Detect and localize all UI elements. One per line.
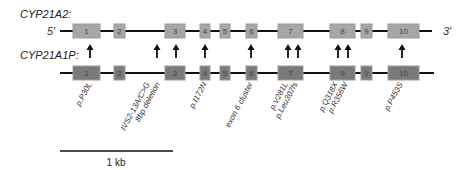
exon-number: 5 (223, 27, 228, 36)
arrow-up-icon (345, 44, 352, 58)
exon-number: 6 (249, 27, 254, 36)
arrow-up-icon (248, 44, 255, 58)
mutation-labels: p.P30LIVS2-13A/C>G8bp deletionp.I172Nexo… (73, 79, 405, 131)
scale-bar-label: 1 kb (107, 157, 126, 168)
arrow-up-icon (399, 44, 406, 58)
exon-number: 3 (173, 69, 178, 78)
cyp21a2-exon-1: 1 (73, 24, 100, 38)
exon-number: 9 (364, 69, 369, 78)
mutation-arrows (87, 44, 406, 58)
exon-number: 9 (340, 69, 345, 78)
arrow-up-icon (154, 44, 161, 58)
cyp21a1p-exon-6: 6 (246, 66, 257, 80)
arrow-up-icon (295, 44, 302, 58)
cyp21a1p-exon-3: 3 (165, 66, 185, 80)
cyp21a1p-exon-7: 7 (278, 66, 303, 80)
mutation-label: p.I172N (187, 81, 209, 111)
three-prime-label: 3' (443, 25, 452, 37)
exon-number: 2 (117, 27, 122, 36)
cyp21a1p-exon-4: 4 (200, 66, 210, 80)
cyp21a2-exons: 12345678910 (73, 24, 419, 38)
cyp21a2-exon-4: 4 (200, 24, 210, 38)
cyp21a2-exon-3: 3 (165, 24, 185, 38)
exon-number: 4 (203, 69, 208, 78)
mutation-label: p.P30L (73, 81, 93, 108)
exon-number: 1 (84, 69, 89, 78)
exon-number: 7 (288, 27, 293, 36)
exon-number: 6 (249, 69, 254, 78)
cyp21a1p-exon-8: 9 (330, 66, 355, 80)
exon-number: 3 (173, 27, 178, 36)
cyp21a2-exon-5: 5 (220, 24, 230, 38)
gene-label-cyp21a1p: CYP21A1P: (20, 49, 79, 61)
mutation-label: p.P453S (382, 80, 405, 113)
exon-number: 8 (340, 27, 345, 36)
cyp21a2-exon-8: 8 (330, 24, 355, 38)
exon-number: 1 (84, 27, 89, 36)
exon-number: 7 (288, 69, 293, 78)
arrow-up-icon (173, 44, 180, 58)
gene-label-cyp21a2: CYP21A2: (20, 8, 71, 20)
exon-number: 5 (223, 69, 228, 78)
exon-number: 9 (364, 27, 369, 36)
exon-number: 10 (399, 69, 408, 78)
cyp21a1p-exon-10: 10 (388, 66, 419, 80)
cyp21a2-exon-9: 9 (361, 24, 372, 38)
arrow-up-icon (87, 44, 94, 58)
exon-number: 10 (399, 27, 408, 36)
arrow-up-icon (285, 44, 292, 58)
gene-diagram: CYP21A2: 5' 3' CYP21A1P: 12345678910 123… (0, 0, 470, 170)
cyp21a1p-exon-2: 2 (114, 66, 125, 80)
cyp21a2-exon-6: 6 (246, 24, 257, 38)
arrow-up-icon (335, 44, 342, 58)
five-prime-label: 5' (47, 25, 56, 37)
cyp21a2-exon-7: 7 (278, 24, 303, 38)
exon-number: 2 (117, 69, 122, 78)
arrow-up-icon (202, 44, 209, 58)
cyp21a1p-exon-1: 1 (73, 66, 100, 80)
cyp21a2-exon-10: 10 (388, 24, 419, 38)
exon-number: 4 (203, 27, 208, 36)
cyp21a1p-exon-9: 9 (361, 66, 372, 80)
mutation-label: exon 6 cluster (223, 80, 254, 128)
cyp21a2-exon-2: 2 (114, 24, 125, 38)
cyp21a1p-exon-5: 5 (220, 66, 230, 80)
cyp21a1p-exons: 12345679910 (73, 66, 419, 80)
